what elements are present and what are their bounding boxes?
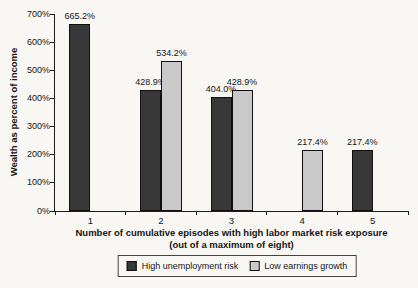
x-tick-mark xyxy=(55,211,56,215)
legend-label: Low earnings growth xyxy=(264,261,347,271)
x-tick-mark xyxy=(196,211,197,215)
y-tick-mark xyxy=(50,98,54,99)
bar-high-unemployment-risk xyxy=(211,97,232,211)
bar-value-label: 217.4% xyxy=(347,137,378,148)
bar-value-label: 534.2% xyxy=(156,48,187,59)
y-tick-label: 700% xyxy=(0,9,50,20)
legend-swatch-high-unemployment-risk xyxy=(127,261,137,271)
bar-value-label: 665.2% xyxy=(65,11,96,22)
bar-high-unemployment-risk xyxy=(140,90,161,211)
legend-label: High unemployment risk xyxy=(142,261,239,271)
x-axis-title-line1: Number of cumulative episodes with high … xyxy=(55,227,408,239)
bar-high-unemployment-risk xyxy=(352,150,373,211)
y-tick-label: 0% xyxy=(0,206,50,217)
x-category-label: 5 xyxy=(370,216,375,226)
legend-item-high-unemployment-risk: High unemployment risk xyxy=(127,261,239,271)
x-axis-line xyxy=(54,211,408,212)
x-tick-mark xyxy=(125,211,126,215)
y-axis-tick-labels: 0%100%200%300%400%500%600%700% xyxy=(0,0,50,288)
x-axis-title-line2: (out of a maximum of eight) xyxy=(55,239,408,251)
chart-legend: High unemployment riskLow earnings growt… xyxy=(118,255,357,277)
x-tick-mark xyxy=(266,211,267,215)
y-tick-label: 500% xyxy=(0,65,50,76)
bar-low-earnings-growth xyxy=(232,90,253,211)
bar-low-earnings-growth xyxy=(302,150,323,211)
legend-item-low-earnings-growth: Low earnings growth xyxy=(249,261,347,271)
x-tick-mark xyxy=(408,211,409,215)
y-tick-mark xyxy=(50,70,54,71)
y-tick-mark xyxy=(50,154,54,155)
x-category-label: 4 xyxy=(299,216,304,226)
wealth-bar-chart-figure: Wealth as percent of income 0%100%200%30… xyxy=(0,0,418,288)
bar-high-unemployment-risk xyxy=(69,24,90,211)
y-tick-label: 200% xyxy=(0,149,50,160)
x-category-label: 1 xyxy=(88,216,93,226)
y-tick-mark xyxy=(50,182,54,183)
x-category-label: 2 xyxy=(158,216,163,226)
bar-value-label: 217.4% xyxy=(297,137,328,148)
x-tick-mark xyxy=(337,211,338,215)
y-tick-label: 100% xyxy=(0,177,50,188)
y-tick-mark xyxy=(50,211,54,212)
y-axis-line xyxy=(54,14,55,211)
y-tick-label: 400% xyxy=(0,93,50,104)
y-tick-mark xyxy=(50,126,54,127)
plot-area: 12345665.2%428.9%404.0%217.4%534.2%428.9… xyxy=(55,14,408,211)
legend-swatch-low-earnings-growth xyxy=(249,261,259,271)
y-tick-mark xyxy=(50,14,54,15)
y-tick-label: 300% xyxy=(0,121,50,132)
y-tick-label: 600% xyxy=(0,37,50,48)
y-tick-mark xyxy=(50,42,54,43)
bar-low-earnings-growth xyxy=(161,61,182,211)
x-category-label: 3 xyxy=(229,216,234,226)
bar-value-label: 428.9% xyxy=(227,77,258,88)
